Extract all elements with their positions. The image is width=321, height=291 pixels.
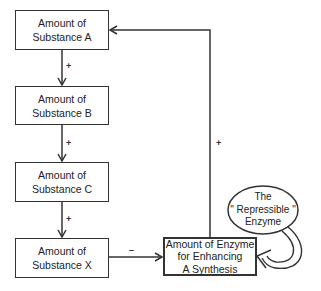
repressible-line2: " Repressible " xyxy=(228,204,298,217)
node-label-line1: Amount of xyxy=(38,16,86,30)
repressible-line3: Enzyme xyxy=(228,216,298,229)
node-label-line2: Substance B xyxy=(32,106,92,120)
node-substance-c: Amount of Substance C xyxy=(15,162,109,202)
arrow-enzyme-to-a xyxy=(110,30,210,237)
node-label-line1: Amount of xyxy=(38,168,86,182)
node-enzyme-box: Amount of Enzyme for Enhancing A Synthes… xyxy=(163,237,257,276)
node-label-line2: Substance A xyxy=(33,30,92,44)
enzyme-label-line3: A Synthesis xyxy=(183,263,238,276)
node-substance-a: Amount of Substance A xyxy=(15,10,109,50)
node-label-line2: Substance C xyxy=(32,182,92,196)
sign-enzyme-to-a: + xyxy=(216,138,221,148)
enzyme-label-line1: Amount of Enzyme xyxy=(166,238,255,251)
sign-a-to-b: + xyxy=(66,61,71,71)
repressible-enzyme-label: The " Repressible " Enzyme xyxy=(228,191,298,229)
node-label-line1: Amount of xyxy=(38,244,86,258)
enzyme-label-line2: for Enhancing xyxy=(178,250,243,263)
sign-c-to-x: + xyxy=(66,214,71,224)
node-substance-b: Amount of Substance B xyxy=(15,86,109,125)
node-label-line2: Substance X xyxy=(32,258,92,272)
node-substance-x: Amount of Substance X xyxy=(15,238,109,278)
sign-b-to-c: + xyxy=(66,138,71,148)
repressible-arrow-inner xyxy=(267,231,293,262)
node-label-line1: Amount of xyxy=(38,92,86,106)
repressible-line1: The xyxy=(228,191,298,204)
sign-x-to-enzyme: – xyxy=(129,245,134,255)
